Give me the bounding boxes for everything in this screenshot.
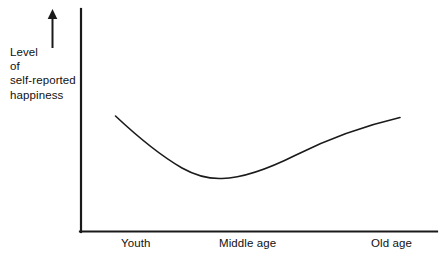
x-tick-label-youth: Youth xyxy=(121,236,151,250)
y-axis-label-line-4: happiness xyxy=(10,88,76,102)
chart-canvas xyxy=(0,0,444,266)
y-axis-label-line-2: of xyxy=(10,59,76,73)
y-axis-label-line-3: self-reported xyxy=(10,73,76,87)
up-arrow-icon xyxy=(48,9,58,48)
happiness-curve xyxy=(116,116,401,179)
happiness-over-lifespan-figure: Level of self-reported happiness Youth M… xyxy=(0,0,444,266)
y-axis-label-line-1: Level xyxy=(10,45,76,59)
x-tick-label-old-age: Old age xyxy=(371,236,412,250)
x-tick-label-middle-age: Middle age xyxy=(219,236,276,250)
y-axis-label: Level of self-reported happiness xyxy=(10,45,76,102)
